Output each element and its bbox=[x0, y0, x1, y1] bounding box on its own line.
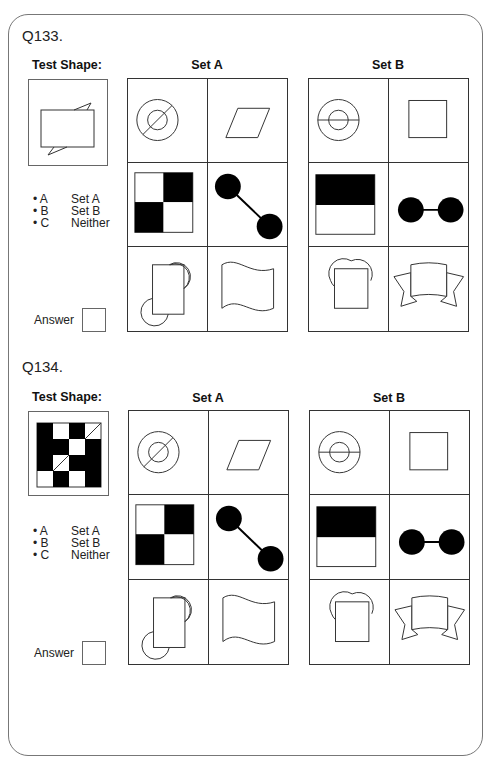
circle-in-circle-diagonal-line-icon bbox=[129, 411, 208, 494]
square-icon bbox=[389, 79, 469, 162]
set-a-grid bbox=[128, 410, 289, 665]
checkerboard-2x2-icon bbox=[128, 163, 207, 246]
square-icon bbox=[390, 411, 470, 494]
wavy-flag-icon bbox=[208, 247, 288, 331]
question-number: Q134. bbox=[22, 358, 63, 375]
answer-input-box[interactable] bbox=[82, 641, 106, 665]
set-a-cell bbox=[209, 580, 289, 664]
checker-grid-icon bbox=[29, 412, 110, 497]
option-c[interactable]: • CNeither bbox=[33, 217, 110, 229]
set-a-grid bbox=[127, 78, 288, 332]
test-shape-label: Test Shape: bbox=[32, 58, 102, 72]
set-b-cell bbox=[310, 411, 390, 495]
set-b-cell bbox=[309, 163, 389, 247]
answer-field: Answer bbox=[34, 641, 106, 665]
square-with-two-circles-diagonal-icon bbox=[129, 580, 208, 664]
dumbbell-diagonal-icon bbox=[209, 495, 289, 578]
test-shape-label: Test Shape: bbox=[32, 390, 102, 404]
set-a-label: Set A bbox=[128, 391, 288, 405]
test-shape-box bbox=[28, 79, 108, 166]
set-b-grid bbox=[309, 410, 470, 665]
set-b-cell bbox=[390, 411, 470, 495]
parallelogram-icon bbox=[208, 79, 288, 162]
half-filled-rectangle-icon bbox=[310, 495, 389, 578]
banner-ribbon-icon bbox=[390, 580, 470, 664]
square-with-two-circles-diagonal-icon bbox=[128, 247, 207, 331]
option-c[interactable]: • CNeither bbox=[33, 549, 110, 561]
half-filled-rectangle-icon bbox=[309, 163, 388, 246]
set-b-cell bbox=[389, 163, 469, 247]
set-a-cell bbox=[129, 411, 209, 495]
set-a-cell bbox=[129, 580, 209, 664]
set-b-cell bbox=[309, 79, 389, 163]
dumbbell-diagonal-icon bbox=[208, 163, 288, 246]
set-b-cell bbox=[310, 580, 390, 664]
set-b-label: Set B bbox=[309, 391, 469, 405]
set-a-cell bbox=[208, 163, 288, 247]
banner-ribbon-icon bbox=[389, 247, 469, 331]
question-number: Q133. bbox=[22, 27, 63, 44]
test-shape-box bbox=[28, 411, 109, 496]
set-b-cell bbox=[390, 580, 470, 664]
answer-label: Answer bbox=[34, 646, 74, 660]
options-list: • ASet A • BSet B • CNeither bbox=[33, 525, 110, 561]
checkerboard-2x2-icon bbox=[129, 495, 208, 578]
circle-in-circle-horizontal-line-icon bbox=[309, 79, 388, 162]
set-a-cell bbox=[129, 495, 209, 579]
dumbbell-horizontal-icon bbox=[389, 163, 469, 246]
set-a-cell bbox=[128, 79, 208, 163]
dumbbell-horizontal-icon bbox=[390, 495, 470, 578]
set-b-cell bbox=[309, 247, 389, 331]
circle-in-circle-diagonal-line-icon bbox=[128, 79, 207, 162]
set-b-cell bbox=[310, 495, 390, 579]
set-b-grid bbox=[308, 78, 469, 332]
set-b-label: Set B bbox=[308, 58, 468, 72]
set-a-cell bbox=[208, 79, 288, 163]
square-with-two-circles-top-icon bbox=[309, 247, 388, 331]
set-a-label: Set A bbox=[127, 58, 287, 72]
set-b-cell bbox=[389, 247, 469, 331]
answer-field: Answer bbox=[34, 308, 106, 332]
set-b-cell bbox=[390, 495, 470, 579]
set-a-cell bbox=[209, 495, 289, 579]
parallelogram-icon bbox=[209, 411, 289, 494]
flag-rectangle-icon bbox=[29, 80, 109, 167]
set-a-cell bbox=[209, 411, 289, 495]
answer-input-box[interactable] bbox=[82, 308, 106, 332]
circle-in-circle-horizontal-line-icon bbox=[310, 411, 389, 494]
set-a-cell bbox=[128, 163, 208, 247]
set-a-cell bbox=[128, 247, 208, 331]
square-with-two-circles-top-icon bbox=[310, 580, 389, 664]
set-a-cell bbox=[208, 247, 288, 331]
options-list: • ASet A • BSet B • CNeither bbox=[33, 193, 110, 229]
set-b-cell bbox=[389, 79, 469, 163]
wavy-flag-icon bbox=[209, 580, 289, 664]
answer-label: Answer bbox=[34, 313, 74, 327]
